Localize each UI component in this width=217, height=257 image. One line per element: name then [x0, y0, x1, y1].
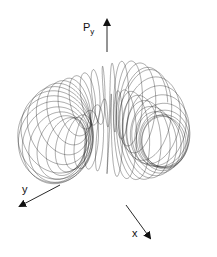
axis-label-y: y [22, 184, 28, 195]
phase-space-plot [0, 0, 217, 257]
axis-label-x: x [132, 228, 138, 239]
trajectory-curve [18, 61, 190, 184]
axis-label-py: Py [83, 22, 94, 36]
